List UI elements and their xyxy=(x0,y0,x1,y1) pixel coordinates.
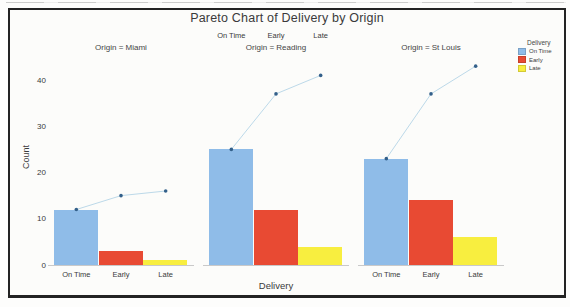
category-tick-label: On Time xyxy=(207,31,255,40)
bar-late xyxy=(298,247,342,266)
category-tick-label: Late xyxy=(297,31,345,40)
bar-on-time xyxy=(54,210,98,266)
legend-swatch-icon xyxy=(518,56,526,63)
legend-item-label: On Time xyxy=(529,48,552,54)
bar-early xyxy=(254,210,298,266)
bar-early xyxy=(409,200,453,265)
scanned-chart-page: Pareto Chart of Delivery by Origin Count… xyxy=(0,0,570,307)
category-tick-label: Late xyxy=(452,270,500,279)
legend-item-label: Early xyxy=(529,57,543,63)
category-tick-label: Early xyxy=(407,270,455,279)
legend-swatch-icon xyxy=(518,48,526,55)
facet-title: Origin = St Louis xyxy=(358,43,504,52)
y-axis-title: Count xyxy=(21,127,31,187)
bar-on-time xyxy=(209,149,253,265)
legend-item-label: Late xyxy=(529,65,541,71)
y-tick-label: 30 xyxy=(16,122,46,131)
x-axis-baseline xyxy=(203,265,349,266)
chart-title: Pareto Chart of Delivery by Origin xyxy=(8,11,566,25)
y-tick-label: 20 xyxy=(16,168,46,177)
legend-item: On Time xyxy=(518,48,566,55)
legend-item: Late xyxy=(518,65,566,72)
y-tick-label: 0 xyxy=(16,261,46,270)
bar-late xyxy=(453,237,497,265)
legend-items: On TimeEarlyLate xyxy=(518,48,566,72)
y-tick-label: 40 xyxy=(16,76,46,85)
category-tick-label: Early xyxy=(252,31,300,40)
scan-artifact-line xyxy=(6,2,566,3)
bar-late xyxy=(143,260,187,265)
x-axis-baseline xyxy=(358,265,504,266)
category-tick-label: Late xyxy=(142,270,190,279)
bar-on-time xyxy=(364,159,408,265)
legend-item: Early xyxy=(518,56,566,63)
y-tick-label: 10 xyxy=(16,214,46,223)
category-tick-label: Early xyxy=(97,270,145,279)
bar-early xyxy=(99,251,143,265)
category-tick-label: On Time xyxy=(362,270,410,279)
facet-title: Origin = Reading xyxy=(203,43,349,52)
legend-title: Delivery xyxy=(527,40,566,46)
legend-swatch-icon xyxy=(518,65,526,72)
legend: Delivery On TimeEarlyLate xyxy=(518,40,566,73)
facet-title: Origin = Miami xyxy=(48,43,194,52)
x-axis-title: Delivery xyxy=(48,280,504,291)
x-axis-baseline xyxy=(48,265,194,266)
category-tick-label: On Time xyxy=(52,270,100,279)
